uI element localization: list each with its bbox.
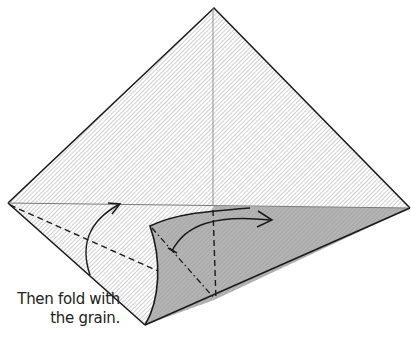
- origami-diagram: Then fold with the grain.: [0, 0, 411, 350]
- upper-triangle-layer: [8, 8, 410, 208]
- caption-line-2: the grain.: [0, 309, 120, 328]
- caption-line-1: Then fold with: [0, 290, 120, 309]
- instruction-caption: Then fold with the grain.: [0, 290, 120, 328]
